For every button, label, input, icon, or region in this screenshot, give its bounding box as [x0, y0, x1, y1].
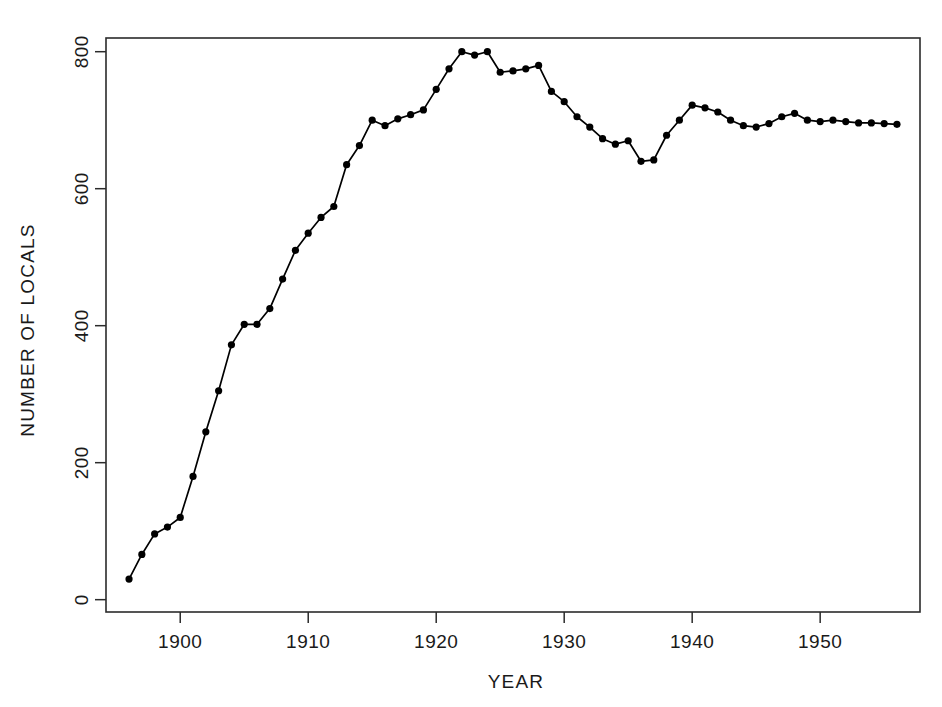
data-point	[689, 102, 696, 109]
data-point	[791, 110, 798, 117]
data-point	[765, 120, 772, 127]
y-axis-ticks	[95, 52, 106, 600]
data-point	[266, 305, 273, 312]
data-point	[881, 120, 888, 127]
data-point	[394, 115, 401, 122]
data-point	[381, 122, 388, 129]
data-point	[292, 247, 299, 254]
data-point	[778, 113, 785, 120]
data-point	[650, 156, 657, 163]
data-point	[842, 118, 849, 125]
data-point	[753, 123, 760, 130]
data-point	[305, 230, 312, 237]
x-tick-label-1930: 1930	[542, 631, 586, 652]
data-point	[356, 142, 363, 149]
data-point	[573, 113, 580, 120]
data-point	[625, 137, 632, 144]
data-point	[804, 117, 811, 124]
chart-figure: 190019101920193019401950 0200400600800 Y…	[0, 0, 942, 707]
data-series-number-of-locals	[125, 48, 900, 583]
data-point	[458, 48, 465, 55]
data-point	[279, 276, 286, 283]
y-tick-label-400: 400	[72, 309, 93, 342]
data-point	[663, 132, 670, 139]
data-point	[829, 117, 836, 124]
data-point	[433, 86, 440, 93]
data-point	[125, 576, 132, 583]
data-point	[215, 387, 222, 394]
data-point	[407, 111, 414, 118]
x-tick-label-1900: 1900	[158, 631, 202, 652]
data-point	[241, 321, 248, 328]
data-point	[177, 514, 184, 521]
data-point	[535, 62, 542, 69]
data-point	[202, 428, 209, 435]
data-point	[509, 67, 516, 74]
data-point	[445, 65, 452, 72]
data-point	[893, 121, 900, 128]
y-tick-label-0: 0	[72, 594, 93, 605]
x-tick-label-1950: 1950	[798, 631, 842, 652]
data-point	[522, 65, 529, 72]
data-point	[868, 119, 875, 126]
data-point	[317, 214, 324, 221]
data-point	[548, 88, 555, 95]
data-point	[714, 108, 721, 115]
data-point	[676, 117, 683, 124]
y-axis-title: NUMBER OF LOCALS	[17, 223, 38, 436]
x-tick-label-1940: 1940	[670, 631, 714, 652]
data-point	[343, 161, 350, 168]
data-point	[471, 52, 478, 59]
data-point	[817, 118, 824, 125]
data-point	[330, 203, 337, 210]
x-axis-ticks	[180, 612, 820, 623]
y-tick-label-600: 600	[72, 172, 93, 205]
data-point	[138, 551, 145, 558]
data-point	[740, 122, 747, 129]
data-point	[727, 117, 734, 124]
y-tick-label-200: 200	[72, 446, 93, 479]
data-point	[189, 473, 196, 480]
data-point	[497, 69, 504, 76]
y-tick-label-800: 800	[72, 35, 93, 68]
data-point	[420, 106, 427, 113]
x-tick-label-1920: 1920	[414, 631, 458, 652]
series-line	[129, 52, 897, 579]
plot-frame	[106, 38, 920, 612]
data-point	[855, 119, 862, 126]
data-point	[612, 141, 619, 148]
x-tick-label-1910: 1910	[286, 631, 330, 652]
data-point	[369, 117, 376, 124]
x-axis-title: YEAR	[488, 671, 545, 692]
line-chart-canvas: 190019101920193019401950 0200400600800 Y…	[0, 0, 942, 707]
x-axis-tick-labels: 190019101920193019401950	[158, 631, 842, 652]
data-point	[586, 123, 593, 130]
data-point	[599, 135, 606, 142]
data-point	[151, 530, 158, 537]
data-point	[228, 341, 235, 348]
y-axis-tick-labels: 0200400600800	[72, 35, 93, 605]
data-point	[164, 523, 171, 530]
data-point	[637, 158, 644, 165]
data-point	[253, 321, 260, 328]
data-point	[484, 48, 491, 55]
data-point	[561, 98, 568, 105]
data-point	[701, 104, 708, 111]
